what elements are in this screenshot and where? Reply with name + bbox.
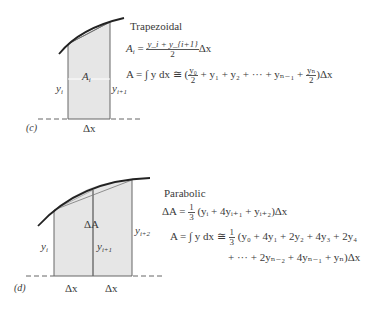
formula-trapezoid-total: A = ∫ y dx ≅ (y₀2 + y₁ + y₂ + ··· + yₙ₋₁… <box>126 66 333 85</box>
right-height-label-c: yi+1 <box>112 82 127 96</box>
right-height-label-d: yi+2 <box>135 224 150 238</box>
formula-trapezoid-local: Ai = y_i + y_{i+1}2Δx <box>126 40 211 59</box>
formula-parabolic-total-line1: A = ∫ y dx ≅ 13 (y₀ + 4y₁ + 2y₂ + 4y₃ + … <box>170 228 357 247</box>
panel-label-d: (d) <box>14 282 26 293</box>
left-height-label-d: yi <box>41 240 48 254</box>
width-label-d-2: Δx <box>105 282 118 294</box>
method-title-parabolic: Parabolic <box>164 187 206 199</box>
formula-parabolic-local: ΔA = 13 (yᵢ + 4yᵢ₊₁ + yᵢ₊₂)Δx <box>162 203 287 222</box>
area-label-d: ΔA <box>84 218 99 230</box>
mid-height-label-d: yi+1 <box>97 240 112 254</box>
method-title-trapezoidal: Trapezoidal <box>130 20 182 32</box>
left-height-label-c: yi <box>56 82 63 96</box>
formula-parabolic-total-line2: + ··· + 2yₙ₋₂ + 4yₙ₋₁ + yₙ)Δx <box>228 251 360 264</box>
panel-label-c: (c) <box>26 122 37 133</box>
width-label-d-1: Δx <box>65 282 78 294</box>
area-label-c: Ai <box>82 70 91 84</box>
width-label-c: Δx <box>83 122 96 134</box>
